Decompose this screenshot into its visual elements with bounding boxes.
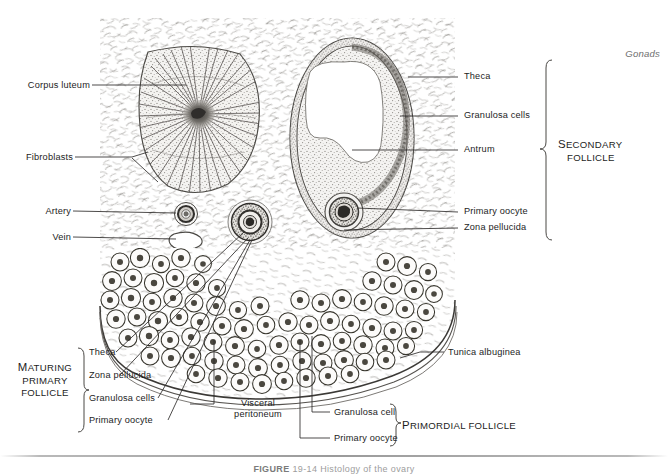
smallcap-initial-m: M <box>18 361 28 373</box>
group-label-mpf-line1: MATURING <box>14 361 76 375</box>
group-label-secondary-follicle: SECONDARY FOLLICLE <box>558 138 622 164</box>
figure-caption: FIGURE 19-14 Histology of the ovary <box>0 464 668 474</box>
label-tunica-albuginea: Tunica albuginea <box>448 347 521 358</box>
group-label-mpf-line3: FOLLICLE <box>14 387 76 400</box>
smallcap-initial-s: S <box>558 138 566 150</box>
label-visceral-peritoneum-line2: peritoneum <box>223 409 293 420</box>
secondary-follicle-structure <box>290 38 414 238</box>
label-mpf-primary-oocyte: Primary oocyte <box>89 415 153 426</box>
smallcap-rest-rimordial-follicle: RIMORDIAL FOLLICLE <box>410 420 516 431</box>
smallcap-initial-p: P <box>402 419 410 431</box>
label-antrum: Antrum <box>464 144 495 155</box>
footer-divider <box>0 455 668 457</box>
brace-secondary-follicle <box>540 60 552 240</box>
smallcap-rest-econdary: ECONDARY <box>566 139 623 150</box>
header-note-gonads: Gonads <box>625 48 660 59</box>
label-visceral-peritoneum-line1: Visceral <box>223 398 293 409</box>
group-label-secondary-follicle-line2: FOLLICLE <box>558 152 622 165</box>
label-mpf-theca: Theca <box>89 347 115 358</box>
smallcap-rest-aturing: ATURING <box>28 362 72 373</box>
label-pf-granulosa-cell: Granulosa cell <box>334 407 395 418</box>
label-zona-pellucida: Zona pellucida <box>464 222 526 233</box>
label-theca: Theca <box>464 71 490 82</box>
vein-structure <box>169 232 202 250</box>
label-primary-oocyte: Primary oocyte <box>464 206 528 217</box>
group-label-maturing-primary-follicle: MATURING PRIMARY FOLLICLE <box>14 361 76 400</box>
group-label-primordial-follicle: PRIMORDIAL FOLLICLE <box>402 419 516 433</box>
label-corpus-luteum: Corpus luteum <box>6 80 90 91</box>
group-label-secondary-follicle-line1: SECONDARY <box>558 138 622 152</box>
label-granulosa-cells: Granulosa cells <box>464 110 530 121</box>
label-visceral-peritoneum: Visceral peritoneum <box>223 398 293 420</box>
label-mpf-granulosa-cells: Granulosa cells <box>89 393 155 404</box>
label-pf-primary-oocyte: Primary oocyte <box>334 433 398 444</box>
figure-caption-label: FIGURE <box>253 464 289 474</box>
ovary-section <box>95 14 460 410</box>
figure-caption-text: 19-14 Histology of the ovary <box>292 464 414 474</box>
maturing-primary-follicle-structure <box>228 200 272 244</box>
label-vein: Vein <box>6 232 71 243</box>
secondary-follicle-oocyte <box>325 193 363 231</box>
artery-structure <box>175 203 198 226</box>
group-label-mpf-line2: PRIMARY <box>14 375 76 388</box>
figure-root: Corpus luteum Fibroblasts Artery Vein Th… <box>0 0 668 474</box>
label-mpf-zona-pellucida: Zona pellucida <box>89 370 151 381</box>
brace-maturing-primary-follicle <box>78 348 89 432</box>
label-artery: Artery <box>6 206 71 217</box>
label-fibroblasts: Fibroblasts <box>6 152 73 163</box>
